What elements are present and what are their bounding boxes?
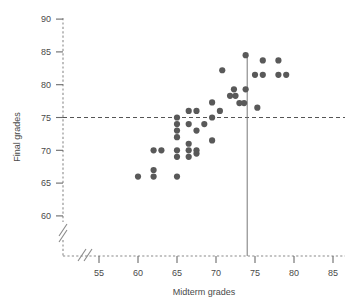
data-point xyxy=(158,147,164,153)
y-axis-title: Final grades xyxy=(12,112,22,162)
data-point xyxy=(243,86,249,92)
x-tick-label: 55 xyxy=(94,268,104,278)
data-point xyxy=(241,100,247,106)
data-point xyxy=(174,173,180,179)
data-point xyxy=(219,67,225,73)
y-tick-label: 90 xyxy=(41,14,51,24)
data-point xyxy=(135,173,141,179)
data-point xyxy=(209,99,215,105)
data-point xyxy=(283,72,289,78)
data-point xyxy=(209,114,215,120)
y-tick-label: 60 xyxy=(41,211,51,221)
data-point xyxy=(260,57,266,63)
data-point xyxy=(151,173,157,179)
data-point xyxy=(186,108,192,114)
plot-canvas: 60657075808590 55606570758085 Midterm gr… xyxy=(0,0,359,308)
data-point xyxy=(217,108,223,114)
data-point xyxy=(252,72,258,78)
data-point xyxy=(193,147,199,153)
x-tick-label: 70 xyxy=(211,268,221,278)
data-point xyxy=(186,141,192,147)
data-point xyxy=(186,121,192,127)
scatter-data-points xyxy=(135,52,289,180)
data-point xyxy=(174,147,180,153)
data-point xyxy=(174,114,180,120)
scatter-plot-figure: 60657075808590 55606570758085 Midterm gr… xyxy=(0,0,359,308)
data-point xyxy=(231,86,237,92)
data-point xyxy=(227,93,233,99)
x-axis-ticks: 55606570758085 xyxy=(94,256,338,278)
data-point xyxy=(275,72,281,78)
x-tick-label: 75 xyxy=(250,268,260,278)
data-point xyxy=(174,134,180,140)
y-tick-label: 65 xyxy=(41,178,51,188)
data-point xyxy=(193,108,199,114)
data-point xyxy=(174,121,180,127)
data-point xyxy=(174,154,180,160)
data-point xyxy=(174,128,180,134)
data-point xyxy=(186,154,192,160)
x-axis-title: Midterm grades xyxy=(173,287,236,297)
x-tick-label: 80 xyxy=(289,268,299,278)
y-tick-label: 75 xyxy=(41,113,51,123)
x-axis-break-icon xyxy=(78,249,92,261)
y-tick-label: 70 xyxy=(41,146,51,156)
data-point xyxy=(254,105,260,111)
x-tick-label: 65 xyxy=(172,268,182,278)
data-point xyxy=(232,93,238,99)
x-tick-label: 85 xyxy=(328,268,338,278)
data-point xyxy=(151,147,157,153)
data-point xyxy=(209,137,215,143)
data-point xyxy=(201,121,207,127)
data-point xyxy=(186,147,192,153)
y-tick-label: 85 xyxy=(41,47,51,57)
y-axis-break-icon xyxy=(59,224,67,242)
data-point xyxy=(275,57,281,63)
y-axis-ticks: 60657075808590 xyxy=(41,14,63,221)
data-point xyxy=(243,52,249,58)
data-point xyxy=(260,72,266,78)
data-point xyxy=(151,167,157,173)
y-tick-label: 80 xyxy=(41,80,51,90)
data-point xyxy=(193,128,199,134)
x-tick-label: 60 xyxy=(133,268,143,278)
